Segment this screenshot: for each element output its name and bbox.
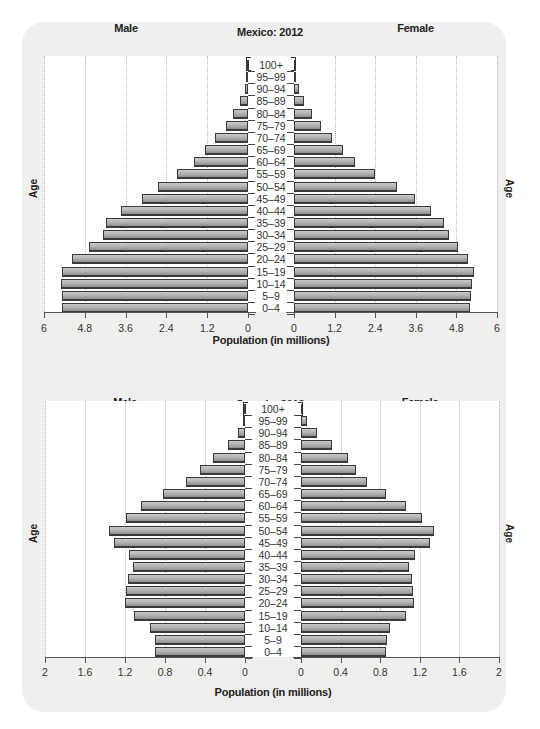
age-group-label: 60–64 [243, 500, 303, 512]
x-tick [125, 657, 126, 663]
female-bar [301, 526, 434, 536]
male-bar [141, 501, 245, 511]
x-tick-label: 2 [42, 666, 48, 678]
male-bar [163, 489, 245, 499]
age-group-label: 25–29 [243, 585, 303, 597]
x-tick [205, 657, 206, 663]
male-bar [186, 477, 245, 487]
gridline [499, 401, 500, 657]
male-bar [126, 586, 245, 596]
female-bar [301, 635, 387, 645]
age-group-label: 70–74 [243, 476, 303, 488]
age-tick [294, 658, 301, 659]
female-bar [301, 562, 409, 572]
female-bar [301, 623, 390, 633]
age-group-label: 100+ [243, 403, 303, 415]
age-tick [245, 658, 252, 659]
gridline [45, 401, 46, 657]
y-axis-label-left: Age [28, 524, 39, 543]
canada-pyramid: Canada: 2012MaleFemale100+95–9990–9485–8… [0, 0, 540, 729]
x-tick-label: 0 [298, 666, 304, 678]
x-tick [420, 657, 421, 663]
female-bar [301, 440, 332, 450]
female-bar [301, 477, 367, 487]
male-bar [155, 635, 245, 645]
female-bar [301, 550, 415, 560]
x-tick [245, 657, 246, 663]
x-tick-label: 0.4 [333, 666, 348, 678]
x-tick [341, 657, 342, 663]
female-bar [301, 428, 317, 438]
y-axis-label-right: Age [504, 524, 515, 543]
age-group-label: 30–34 [243, 573, 303, 585]
female-bar [301, 574, 412, 584]
x-tick-label: 0.4 [198, 666, 213, 678]
x-tick [301, 657, 302, 663]
male-x-axis [45, 657, 253, 658]
age-group-label: 20–24 [243, 597, 303, 609]
male-bar [134, 611, 245, 621]
x-tick [380, 657, 381, 663]
x-tick [165, 657, 166, 663]
male-bar [109, 526, 245, 536]
male-bar [133, 562, 245, 572]
age-group-label: 65–69 [243, 488, 303, 500]
age-group-label: 75–79 [243, 464, 303, 476]
age-group-label: 45–49 [243, 537, 303, 549]
male-bar [128, 574, 245, 584]
x-tick-label: 1.2 [118, 666, 133, 678]
age-group-label: 50–54 [243, 525, 303, 537]
x-tick-label: 1.6 [452, 666, 467, 678]
gridline [85, 401, 86, 657]
age-group-label: 55–59 [243, 512, 303, 524]
female-bar [301, 611, 406, 621]
age-group-label: 90–94 [243, 427, 303, 439]
female-bar [301, 586, 413, 596]
female-bar [301, 501, 406, 511]
x-tick [85, 657, 86, 663]
age-group-label: 10–14 [243, 622, 303, 634]
female-bar [301, 513, 422, 523]
x-tick [499, 657, 500, 663]
male-bar [155, 647, 245, 657]
age-group-label: 5–9 [243, 634, 303, 646]
female-bar [301, 453, 348, 463]
male-bar [125, 598, 245, 608]
x-axis-title: Population (in millions) [215, 686, 332, 698]
male-bar [150, 623, 245, 633]
age-group-label: 80–84 [243, 452, 303, 464]
age-group-label: 15–19 [243, 610, 303, 622]
female-bar [301, 465, 356, 475]
age-group-label: 40–44 [243, 549, 303, 561]
male-bar [213, 453, 245, 463]
x-tick-label: 1.6 [78, 666, 93, 678]
female-x-axis [293, 657, 499, 658]
male-bar [200, 465, 245, 475]
x-tick-label: 2 [496, 666, 502, 678]
x-tick-label: 0.8 [158, 666, 173, 678]
age-group-label: 35–39 [243, 561, 303, 573]
male-bar [114, 538, 245, 548]
female-bar [301, 647, 386, 657]
age-group-label: 95–99 [243, 415, 303, 427]
x-tick-label: 1.2 [412, 666, 427, 678]
x-tick [459, 657, 460, 663]
female-bar [301, 489, 386, 499]
female-bar [301, 598, 414, 608]
male-bar [129, 550, 245, 560]
age-bracket-left [243, 402, 248, 416]
age-group-label: 85–89 [243, 439, 303, 451]
male-bar [126, 513, 245, 523]
female-bar [301, 538, 430, 548]
x-tick-label: 0.8 [373, 666, 388, 678]
x-tick-label: 0 [242, 666, 248, 678]
gridline [459, 401, 460, 657]
age-bracket-right [298, 402, 303, 416]
x-tick [45, 657, 46, 663]
